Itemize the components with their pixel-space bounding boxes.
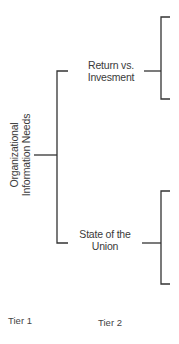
tier-1-label: Tier 1 (8, 315, 32, 326)
node-label-line1: Return vs. (80, 59, 142, 71)
root-label-line2: Information Needs (20, 114, 32, 196)
node-return-vs-investment: Return vs. Invesment (80, 59, 142, 83)
root-node-label: Organizational Information Needs (8, 114, 32, 196)
node-label-line2: Invesment (80, 71, 142, 83)
node-state-of-the-union: State of the Union (72, 228, 138, 252)
node-label-line1: State of the (72, 228, 138, 240)
root-label-line1: Organizational (8, 114, 20, 196)
tier-2-label: Tier 2 (98, 317, 122, 328)
node-label-line2: Union (72, 240, 138, 252)
